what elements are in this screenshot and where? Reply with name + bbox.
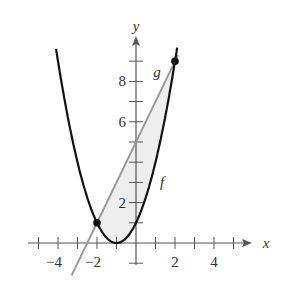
- graph-figure: −4−224268xygf: [0, 0, 283, 283]
- x-tick-label: 2: [171, 254, 179, 270]
- g-label: g: [153, 64, 161, 80]
- f-label: f: [160, 174, 166, 190]
- intersection-point: [93, 219, 101, 227]
- x-tick-label: −4: [46, 254, 62, 270]
- y-axis-label: y: [131, 18, 140, 34]
- x-axis-label: x: [262, 235, 270, 251]
- x-tick-label: 4: [210, 254, 218, 270]
- intersection-point: [171, 57, 179, 65]
- y-tick-label: 8: [119, 73, 127, 89]
- plot-area: −4−224268xygf: [0, 0, 283, 283]
- y-tick-label: 2: [119, 195, 127, 211]
- y-tick-label: 6: [119, 114, 127, 130]
- x-tick-label: −2: [85, 254, 101, 270]
